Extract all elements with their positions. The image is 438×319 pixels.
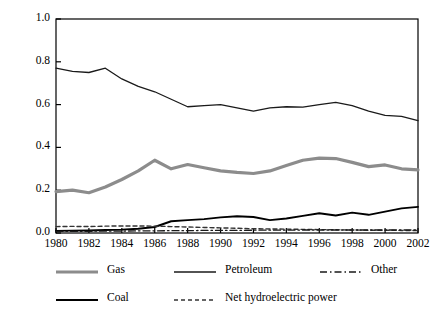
legend-line-sample: [320, 264, 362, 276]
legend-label: Petroleum: [225, 264, 272, 276]
legend-label: Net hydroelectric power: [225, 292, 337, 304]
x-axis-tick-label: 1982: [73, 237, 105, 249]
chart-figure: 0.00.20.40.60.81.0 198019821984198619881…: [0, 0, 438, 319]
series-line-gas: [56, 158, 418, 193]
x-axis-tick-label: 1990: [205, 237, 237, 249]
y-axis-tick-label: 0.0: [14, 225, 50, 237]
x-axis-tick-label: 1992: [237, 237, 269, 249]
x-axis-tick-label: 1988: [172, 237, 204, 249]
axes-frame: [56, 19, 418, 233]
legend-item-net-hydroelectric-power[interactable]: Net hydroelectric power: [174, 286, 337, 310]
legend-label: Coal: [107, 292, 129, 304]
y-axis-tick-label: 0.8: [14, 54, 50, 66]
legend-line-sample: [174, 292, 216, 304]
legend-line-sample: [56, 292, 98, 304]
legend-label: Other: [371, 264, 397, 276]
legend-line-sample: [56, 264, 98, 276]
x-axis-tick-label: 1998: [336, 237, 368, 249]
y-axis-tick-label: 1.0: [14, 11, 50, 23]
x-axis-tick-label: 1984: [106, 237, 138, 249]
x-axis-tick-label: 1994: [270, 237, 302, 249]
legend-row: GasPetroleumOther: [56, 258, 426, 282]
legend-line-sample: [174, 264, 216, 276]
series-line-petroleum: [56, 68, 418, 120]
x-axis-tick-label: 1986: [139, 237, 171, 249]
legend-row: CoalNet hydroelectric power: [56, 286, 426, 310]
y-axis-tick-label: 0.4: [14, 139, 50, 151]
legend-item-other[interactable]: Other: [320, 258, 397, 282]
legend-label: Gas: [107, 264, 125, 276]
x-axis-tick-label: 2000: [369, 237, 401, 249]
y-axis-tick-label: 0.6: [14, 97, 50, 109]
legend-item-gas[interactable]: Gas: [56, 258, 125, 282]
legend-item-petroleum[interactable]: Petroleum: [174, 258, 272, 282]
x-axis-tick-label: 1980: [40, 237, 72, 249]
chart-legend: GasPetroleumOtherCoalNet hydroelectric p…: [56, 258, 426, 314]
x-axis-tick-label: 1996: [303, 237, 335, 249]
x-axis-tick-label: 2002: [402, 237, 434, 249]
y-axis-tick-label: 0.2: [14, 182, 50, 194]
series-line-coal: [56, 207, 418, 231]
legend-item-coal[interactable]: Coal: [56, 286, 129, 310]
